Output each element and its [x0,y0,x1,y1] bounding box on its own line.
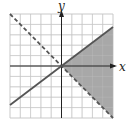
shaded-region [62,27,114,118]
graph: x y [0,0,129,127]
y-axis-label: y [57,0,65,13]
x-axis-arrow-icon [110,64,117,69]
x-axis-label: x [119,60,126,74]
